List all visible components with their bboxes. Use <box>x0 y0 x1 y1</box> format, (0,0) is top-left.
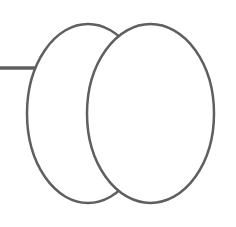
two-disc-diagram <box>0 0 236 227</box>
diagram-canvas <box>0 0 236 227</box>
front-disc-ellipse <box>87 24 214 203</box>
